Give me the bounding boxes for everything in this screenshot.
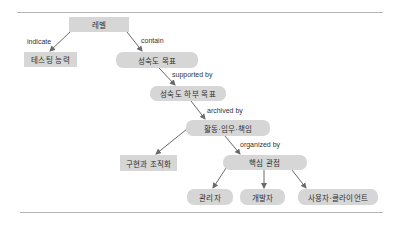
arrow-activities-to-views (225, 136, 240, 154)
node-level: 레벨 (69, 17, 129, 32)
edge-label-organized-by: organized by (240, 141, 280, 148)
arrow-subgoal-to-activities (191, 101, 205, 119)
node-maturity-subgoal: 성숙도 하부 목표 (150, 86, 226, 101)
node-developer: 개발자 (240, 189, 285, 205)
node-activities: 활동·임무·책임 (186, 120, 270, 136)
edge-label-indicate: indicate (27, 38, 51, 45)
node-critical-views: 핵심 관점 (223, 155, 307, 170)
arrow-activities-to-implementation (156, 129, 187, 154)
edge-label-archived-by: archived by (207, 107, 243, 114)
node-implementation: 구현과 조직화 (120, 155, 177, 171)
arrow-level-to-testing (50, 32, 70, 51)
node-maturity-goal: 성숙도 목표 (116, 52, 198, 68)
arrow-views-to-user (292, 170, 306, 188)
node-user-client: 사용자·클라이언트 (298, 189, 378, 205)
edge-label-supported-by: supported by (172, 71, 212, 78)
node-manager: 관리자 (187, 189, 233, 205)
arrow-level-to-goal (127, 32, 142, 51)
edge-label-contain: contain (141, 37, 164, 44)
node-testing-capability: 테스팅 능력 (24, 52, 77, 67)
